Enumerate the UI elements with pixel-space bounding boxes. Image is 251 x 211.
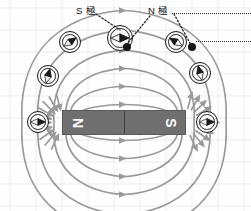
leader-line-group [0, 0, 251, 211]
leader-s-pole [96, 14, 120, 30]
leader-n-pole-b [174, 14, 191, 45]
callout-row-top [172, 13, 251, 14]
leader-n-pole-a [126, 16, 150, 45]
magnetic-field-diagram: N S S 極 N 極 [0, 0, 251, 211]
callout-row-bottom [196, 41, 251, 42]
s-pole-label: S 極 [76, 3, 96, 17]
n-pole-label: N 極 [148, 3, 168, 17]
